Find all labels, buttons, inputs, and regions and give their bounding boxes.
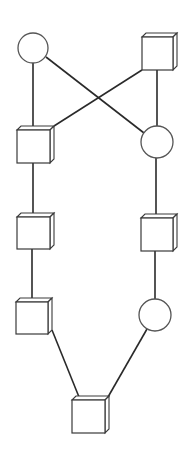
edge-cube-left-3-to-cube-bottom — [52, 330, 79, 397]
cube-front-face — [17, 130, 50, 163]
cube-top-right-cube-icon — [142, 33, 177, 70]
cube-top-face — [17, 213, 54, 217]
cube-front-face — [141, 218, 173, 251]
cube-top-face — [141, 214, 177, 218]
cube-top-face — [17, 126, 54, 130]
circle-right-3-node-icon — [139, 299, 171, 331]
nodes-layer — [16, 33, 177, 433]
cube-front-face — [16, 302, 48, 334]
cube-right-2-cube-icon — [141, 214, 177, 251]
cube-top-face — [72, 396, 109, 400]
cube-side-face — [173, 33, 177, 70]
cube-left-3-cube-icon — [16, 298, 52, 334]
cube-left-1-cube-icon — [17, 126, 54, 163]
cube-front-face — [72, 400, 105, 433]
circle-top-left-node-icon — [18, 33, 48, 63]
cube-left-2-cube-icon — [17, 213, 54, 249]
network-diagram — [0, 0, 189, 454]
cube-front-face — [142, 37, 173, 70]
circle-right-1-node-icon — [141, 126, 173, 158]
cube-side-face — [173, 214, 177, 251]
edge-circle-right-3-to-cube-bottom — [108, 329, 147, 397]
cube-front-face — [17, 217, 50, 249]
edge-cube-top-right-to-cube-left-1 — [54, 70, 142, 126]
cube-bottom-cube-icon — [72, 396, 109, 433]
cube-top-face — [16, 298, 52, 302]
